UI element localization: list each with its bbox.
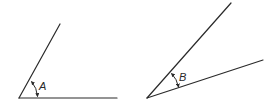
angle-diagram: A B: [0, 0, 278, 104]
angle-a-label: A: [38, 80, 46, 92]
angle-a-arc-arrow-icon: [32, 82, 38, 97]
angle-b: B: [147, 3, 263, 98]
angle-b-label: B: [179, 71, 186, 83]
angle-b-arc-arrow-icon: [172, 74, 179, 88]
angle-a: A: [19, 24, 117, 98]
